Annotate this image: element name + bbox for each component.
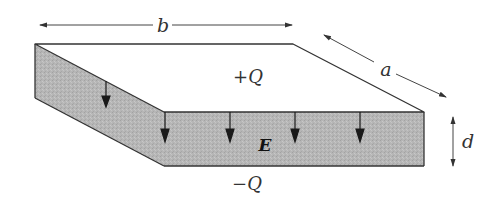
dimension-b: b xyxy=(40,14,292,36)
label-b: b xyxy=(157,14,169,36)
capacitor-diagram: b a d xyxy=(0,0,500,206)
label-field-e: E xyxy=(258,135,273,155)
label-a: a xyxy=(380,58,391,80)
label-bottom-charge: −Q xyxy=(232,173,262,194)
label-top-charge: +Q xyxy=(233,66,263,87)
label-d: d xyxy=(462,130,474,152)
dimension-d: d xyxy=(453,117,474,166)
